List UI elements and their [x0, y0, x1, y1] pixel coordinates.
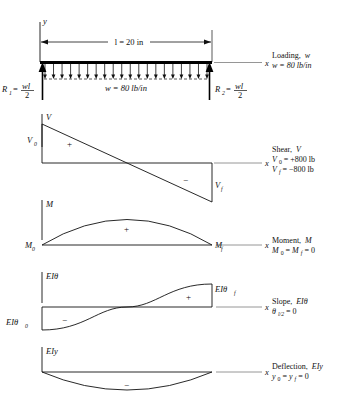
svg-text:0: 0 — [34, 141, 37, 147]
load-magnitude-label: w = 80 lb/in — [105, 83, 147, 93]
svg-text:=: = — [226, 84, 231, 94]
moment-x-label: x — [264, 240, 269, 250]
slope-thetaf-label: EIθ f — [214, 284, 237, 296]
beam-bar — [40, 61, 212, 64]
svg-text:w = 80 lb/in: w = 80 lb/in — [272, 61, 311, 70]
shear-vf-label: V f — [215, 180, 224, 192]
svg-text:Loading, w: Loading, w — [272, 51, 311, 60]
shear-v0-label: V 0 — [27, 135, 37, 147]
load-arrow-head — [128, 75, 132, 80]
dimension-line-length: l = 20 in — [41, 36, 211, 48]
shear-axis-label: V — [46, 112, 53, 122]
load-arrow-head — [43, 75, 47, 80]
svg-text:f: f — [221, 246, 224, 252]
load-arrow-head — [69, 75, 73, 80]
svg-text:2: 2 — [238, 90, 242, 100]
svg-text:V f = −800 lb: V f = −800 lb — [272, 165, 314, 176]
svg-text:2: 2 — [25, 90, 29, 100]
loading-diagram: y l = 20 in x w = 80 lb/in — [1, 16, 311, 100]
load-arrow-head — [171, 75, 175, 80]
loading-caption: Loading, w w = 80 lb/in — [272, 51, 311, 70]
moment-plus-sign: + — [124, 224, 129, 234]
shear-minus-sign: − — [183, 175, 188, 185]
svg-text:V: V — [27, 135, 34, 145]
load-arrow-head — [103, 75, 107, 80]
beam-analysis-figure: y l = 20 in x w = 80 lb/in — [0, 0, 341, 409]
reaction-right-label: R 2 = wl 2 — [214, 81, 247, 100]
svg-text:θ l/2 = 0: θ l/2 = 0 — [272, 307, 297, 318]
y-axis-label: y — [42, 16, 47, 26]
load-arrow-head — [180, 75, 184, 80]
svg-text:Slope, EIθ: Slope, EIθ — [272, 297, 308, 306]
load-arrow-head — [162, 75, 166, 80]
deflection-caption: Deflection, EIy y 0 = y f = 0 — [271, 362, 323, 383]
load-arrow-head — [60, 75, 64, 80]
load-arrow-head — [111, 75, 115, 80]
moment-caption: Moment, M M 0 = M f = 0 — [271, 236, 315, 257]
moment-m0-label: M 0 — [24, 240, 35, 252]
load-arrow-head — [120, 75, 124, 80]
reaction-left-label: R 1 = wl 2 — [1, 81, 34, 100]
moment-axis-label: M — [45, 199, 54, 209]
svg-text:y 0 =: y 0 = y f = 0 — [271, 372, 309, 383]
moment-diagram: M x M 0 M f + Moment, M M 0 = M f — [24, 199, 315, 257]
svg-text:0: 0 — [25, 323, 28, 329]
deflection-diagram: EIy x − Deflection, EIy y 0 = y f = 0 — [42, 346, 323, 390]
load-arrow-head — [86, 75, 90, 80]
load-arrow-head — [188, 75, 192, 80]
load-arrow-head — [197, 75, 201, 80]
svg-text:Shear, V: Shear, V — [272, 145, 302, 154]
shear-diagram: V x V 0 V f + − Shear, V V — [27, 112, 315, 202]
deflection-minus-sign: − — [124, 380, 129, 390]
svg-text:1: 1 — [9, 90, 12, 96]
svg-text:Moment, M: Moment, M — [272, 236, 313, 245]
distributed-load-arrows — [43, 64, 209, 79]
moment-mf-label: M f — [214, 240, 224, 252]
svg-text:0: 0 — [32, 246, 35, 252]
deflection-x-label: x — [264, 367, 269, 377]
slope-plus-sign: + — [186, 292, 191, 302]
load-arrow-head — [205, 75, 209, 80]
shear-plus-sign: + — [67, 139, 72, 149]
slope-x-label: x — [264, 302, 269, 312]
slope-axis-label: EIθ — [45, 271, 58, 281]
slope-minus-sign: − — [62, 315, 67, 325]
deflection-axis-label: EIy — [45, 346, 58, 356]
load-arrow-head — [77, 75, 81, 80]
slope-diagram: EIθ x EIθ 0 EIθ f − + Slope, EIθ θ — [5, 271, 308, 330]
shear-x-label: x — [264, 158, 269, 168]
loading-x-label: x — [264, 58, 269, 68]
length-label: l = 20 in — [115, 37, 144, 47]
svg-text:EIθ: EIθ — [214, 284, 227, 294]
svg-text:f: f — [221, 186, 224, 192]
dimension-arrow-right — [204, 40, 211, 45]
slope-theta0-label: EIθ 0 — [5, 317, 28, 329]
svg-text:EIθ: EIθ — [5, 317, 18, 327]
load-arrow-head — [94, 75, 98, 80]
load-arrow-head — [154, 75, 158, 80]
shear-caption: Shear, V V 0 = +800 lb V f = −800 lb — [272, 145, 315, 176]
load-arrow-head — [52, 75, 56, 80]
slope-caption: Slope, EIθ θ l/2 = 0 — [272, 297, 308, 318]
svg-text:2: 2 — [222, 90, 225, 96]
svg-text:M 0 =: M 0 = M f = 0 — [271, 246, 315, 257]
svg-text:R: R — [1, 84, 8, 94]
load-arrow-head — [145, 75, 149, 80]
svg-text:f: f — [234, 290, 237, 296]
dimension-arrow-left — [41, 40, 48, 45]
svg-text:Deflection, EIy: Deflection, EIy — [272, 362, 323, 371]
svg-text:=: = — [13, 84, 18, 94]
svg-text:R: R — [214, 84, 221, 94]
load-arrow-head — [137, 75, 141, 80]
